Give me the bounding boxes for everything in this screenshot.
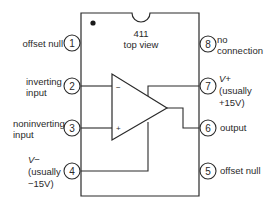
wire-pin6 (167, 108, 199, 128)
pin8-label: no connection (217, 34, 263, 56)
pin-number: 2 (69, 81, 75, 92)
pin7-label: V+ (usually +15V) (219, 73, 252, 109)
view-label: top view (124, 39, 159, 50)
pin1-label: offset null (23, 38, 64, 49)
part-number: 411 (133, 28, 148, 39)
pin2-label: inverting input (26, 76, 62, 98)
label-line: no (217, 34, 263, 45)
pin3-label: noninverting input (13, 118, 65, 140)
label-line: connection (217, 45, 263, 56)
pin1-indicator-dot (90, 20, 95, 25)
label-line: noninverting (13, 118, 65, 129)
pin-4: 4 (64, 163, 80, 179)
pin6-label: output (220, 122, 246, 133)
label-line: inverting (26, 76, 62, 87)
pin-6: 6 (200, 120, 216, 136)
label-line: V+ (219, 73, 252, 85)
label-line: +15V) (219, 97, 252, 109)
pin-number: 7 (205, 81, 211, 92)
pin-number: 8 (205, 39, 211, 50)
label-line: output (220, 122, 246, 133)
label-line: input (26, 87, 62, 98)
label-line: −15V) (28, 178, 61, 190)
pin-7: 7 (200, 78, 216, 94)
pin-8: 8 (200, 36, 216, 52)
label-line: (usually (219, 85, 252, 97)
pin-number: 6 (205, 123, 211, 134)
pin5-label: offset null (220, 165, 261, 176)
wires (81, 86, 199, 171)
label-line: (usually (28, 166, 61, 178)
label-line: V− (28, 154, 61, 166)
pin-1: 1 (64, 35, 80, 51)
inverting-sign: − (116, 83, 121, 92)
pin-3: 3 (64, 120, 80, 136)
label-line: offset null (23, 38, 64, 49)
label-line: offset null (220, 165, 261, 176)
pin-2: 2 (64, 78, 80, 94)
noninverting-sign: + (116, 124, 121, 133)
pin-number: 4 (69, 166, 75, 177)
pin-number: 3 (69, 123, 75, 134)
pin4-label: V− (usually −15V) (28, 154, 61, 190)
pin-5: 5 (200, 163, 216, 179)
pin-number: 1 (69, 38, 75, 49)
wire-pin7 (148, 86, 199, 96)
wire-pin4 (81, 122, 148, 171)
label-line: input (13, 129, 65, 140)
pin-number: 5 (205, 166, 211, 177)
